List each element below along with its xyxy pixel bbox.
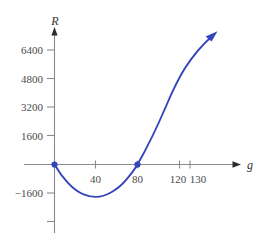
- chart-figure: 6400 4800 3200 1600 −1600 40 80 120 130 …: [0, 0, 267, 238]
- x-tick-label-120: 120: [170, 173, 187, 185]
- y-axis-label: R: [50, 14, 59, 28]
- y-tick-label-3200: 3200: [21, 101, 44, 113]
- x-axis-label: g: [247, 158, 253, 172]
- x-tick-label-80: 80: [132, 173, 144, 185]
- x-tick-labels: 40 80 120 130: [90, 173, 207, 185]
- x-tick-label-130: 130: [190, 173, 207, 185]
- data-point-root-eighty: [134, 161, 140, 167]
- data-point-root-origin: [51, 161, 57, 167]
- y-tick-label-4800: 4800: [21, 73, 44, 85]
- y-tick-label-1600: 1600: [21, 130, 44, 142]
- x-tick-label-40: 40: [90, 173, 102, 185]
- y-tick-label-neg1600: −1600: [15, 187, 44, 199]
- y-axis-arrowhead: [51, 27, 57, 36]
- axes-group: [24, 27, 241, 233]
- x-axis-arrowhead: [233, 161, 242, 167]
- y-tick-marks: [47, 50, 55, 222]
- y-tick-label-6400: 6400: [21, 44, 44, 56]
- y-tick-labels: 6400 4800 3200 1600 −1600: [15, 44, 44, 199]
- parabola-plot: 6400 4800 3200 1600 −1600 40 80 120 130 …: [0, 0, 267, 238]
